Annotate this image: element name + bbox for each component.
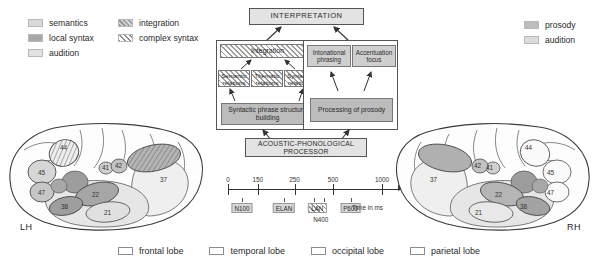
timeline-unit-label: Time in ms [352, 204, 383, 211]
legend-label: audition [49, 48, 79, 58]
legend-label: occipital lobe [332, 246, 384, 256]
legend-label: complex syntax [139, 33, 198, 43]
tick-label: 150 [252, 176, 263, 183]
legend-label: parietal lobe [431, 246, 480, 256]
integration-swatch-icon [118, 19, 133, 27]
prosody-swatch-icon [524, 21, 539, 29]
interpretation-box: INTERPRETATION [249, 8, 364, 25]
timeline-tick [228, 184, 229, 195]
erp-component-elan: ELAN [273, 203, 295, 213]
legend-label: semantics [49, 18, 88, 28]
area-label-41: 41 [102, 164, 110, 171]
timeline-axis [228, 189, 403, 190]
parietal-lobe-swatch-icon [410, 247, 425, 255]
acoustic-phonological-processor-box: ACOUSTIC-PHONOLOGICAL PROCESSOR [245, 138, 367, 157]
legend-item-temporal-lobe: temporal lobe [209, 244, 285, 257]
right-brain-illustration: 44 45 47 41 42 22 38 21 37 [392, 120, 597, 238]
syntax-processing-panel: Integration Semantic relations Thematic … [216, 40, 317, 130]
legend-item-frontal-lobe: frontal lobe [118, 244, 184, 257]
erp-stub [242, 198, 243, 202]
erp-component-n400: N400 [311, 214, 330, 224]
legend-item-complex-syntax: complex syntax [118, 31, 198, 44]
erp-stub [314, 198, 315, 202]
tick-label: 500 [328, 176, 339, 183]
legend-middle: integration complex syntax [118, 16, 198, 46]
legend-lobes: frontal lobe temporal lobe occipital lob… [0, 244, 598, 257]
audition-swatch-icon [28, 49, 43, 57]
area-label-44: 44 [60, 144, 68, 151]
area-label-21: 21 [104, 209, 112, 216]
timeline-tick [295, 184, 296, 195]
area-label-22: 22 [495, 191, 503, 198]
legend-item-parietal-lobe: parietal lobe [410, 244, 480, 257]
legend-label: audition [545, 35, 575, 45]
erp-component-n100: N100 [231, 203, 252, 213]
area-label-37: 37 [430, 176, 438, 183]
area-label-38: 38 [61, 203, 69, 210]
erp-stub [284, 198, 285, 202]
erp-timeline: 0 150 250 500 1000 N100 ELAN LAN N400 P6… [228, 176, 403, 222]
legend-item-audition: audition [28, 46, 94, 59]
area-label-42: 42 [474, 162, 482, 169]
temporal-lobe-swatch-icon [209, 247, 224, 255]
area-label-21: 21 [475, 209, 483, 216]
legend-item-prosody: prosody [524, 18, 576, 31]
legend-label: prosody [545, 20, 576, 30]
area-label-22: 22 [92, 191, 100, 198]
audition-swatch-icon [524, 36, 539, 44]
timeline-tick [333, 184, 334, 195]
legend-item-local-syntax: local syntax [28, 31, 94, 44]
area-label-45: 45 [38, 169, 46, 176]
prosody-panel-arrows [304, 41, 399, 131]
area-label-45: 45 [547, 169, 555, 176]
legend-item-occipital-lobe: occipital lobe [311, 244, 384, 257]
legend-label: integration [139, 18, 179, 28]
tick-label: 250 [289, 176, 300, 183]
area-label-44: 44 [525, 144, 533, 151]
right-hemisphere-brain: 44 45 47 41 42 22 38 21 37 RH [392, 120, 597, 238]
diagram-canvas: semantics local syntax audition integrat… [0, 0, 598, 263]
tick-label: 1000 [375, 176, 389, 183]
timeline-tick [258, 184, 259, 195]
area-label-41: 41 [486, 164, 494, 171]
semantics-swatch-icon [28, 19, 43, 27]
area-label-42: 42 [115, 162, 123, 169]
erp-stub [351, 198, 352, 202]
tick-label: 0 [226, 176, 230, 183]
area-label-38: 38 [520, 203, 528, 210]
left-hemisphere-brain: 44 45 47 41 42 22 38 21 37 LH [2, 120, 207, 238]
legend-item-integration: integration [118, 16, 198, 29]
area-label-47: 47 [547, 189, 555, 196]
prosody-processing-panel: Intonational phrasing Accentuation focus… [303, 40, 398, 130]
local-syntax-swatch-icon [28, 34, 43, 42]
left-brain-illustration: 44 45 47 41 42 22 38 21 37 [2, 120, 207, 238]
occipital-lobe-swatch-icon [311, 247, 326, 255]
legend-label: frontal lobe [139, 246, 184, 256]
legend-label: local syntax [49, 33, 94, 43]
timeline-tick [382, 184, 383, 195]
left-hemisphere-label: LH [20, 222, 33, 232]
legend-item-semantics: semantics [28, 16, 94, 29]
erp-stub [324, 198, 325, 202]
erp-component-lan: LAN [308, 203, 326, 213]
frontal-lobe-swatch-icon [118, 247, 133, 255]
complex-syntax-swatch-icon [118, 34, 133, 42]
legend-label: temporal lobe [230, 246, 285, 256]
right-hemisphere-label: RH [567, 222, 581, 232]
legend-left: semantics local syntax audition [28, 16, 94, 61]
area-label-37: 37 [160, 176, 168, 183]
legend-item-audition-right: audition [524, 33, 576, 46]
area-label-47: 47 [38, 189, 46, 196]
legend-right: prosody audition [524, 18, 576, 48]
